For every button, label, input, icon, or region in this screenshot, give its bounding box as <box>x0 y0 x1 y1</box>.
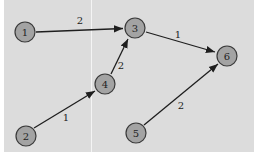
node-label-1: 1 <box>22 27 28 38</box>
edge-weight-3-6: 1 <box>175 29 181 40</box>
graph-svg: 2 1 1 2 2 1 2 3 <box>0 0 254 158</box>
node-label-6: 6 <box>224 51 230 62</box>
edge-weight-1-3: 2 <box>77 15 83 26</box>
node-label-5: 5 <box>133 128 139 139</box>
node-5: 5 <box>126 123 146 143</box>
edge-weight-5-6: 2 <box>178 100 184 111</box>
node-6: 6 <box>217 46 237 66</box>
node-label-2: 2 <box>23 131 29 142</box>
node-label-3: 3 <box>132 23 138 34</box>
graph-canvas: 2 1 1 2 2 1 2 3 <box>0 0 254 158</box>
edge-weight-2-4: 1 <box>63 112 69 123</box>
edge-2-to-4: 1 <box>34 91 95 128</box>
edge-weight-4-3: 2 <box>118 60 124 71</box>
node-2: 2 <box>16 126 36 146</box>
node-4: 4 <box>95 74 115 94</box>
edge-4-to-3: 2 <box>111 39 128 74</box>
node-1: 1 <box>15 22 35 42</box>
node-3: 3 <box>125 18 145 38</box>
edge-5-to-6: 2 <box>144 64 218 125</box>
edge-3-to-6: 1 <box>146 29 215 52</box>
edge-1-to-3: 2 <box>36 15 123 32</box>
node-label-4: 4 <box>102 79 108 90</box>
